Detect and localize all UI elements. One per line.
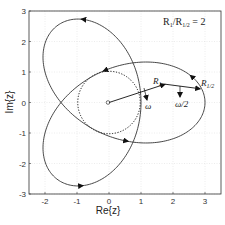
y-tick-label: 0 bbox=[22, 99, 27, 108]
r1-vector bbox=[109, 84, 165, 102]
y-tick-label: 1 bbox=[22, 68, 27, 77]
y-tick-label: -3 bbox=[19, 190, 27, 199]
x-tick-label: 1 bbox=[139, 197, 144, 206]
direction-arrow-icon bbox=[103, 70, 107, 71]
r1-label: R1 bbox=[152, 76, 162, 87]
diagram-figure: -2-10123 3210-1-2-3 R1 R1/2 ω ω/2 R1/R1/… bbox=[0, 0, 225, 225]
r-half-label: R1/2 bbox=[200, 78, 214, 89]
ratio-annotation: R1/R1/2 = 2 bbox=[163, 16, 205, 28]
grid-lines bbox=[29, 11, 221, 194]
direction-arrow-icon bbox=[124, 141, 128, 142]
y-tick-label: 3 bbox=[22, 7, 27, 16]
x-tick-label: -1 bbox=[73, 197, 81, 206]
y-axis-label: Im{z} bbox=[4, 90, 15, 113]
omega-label: ω bbox=[145, 101, 151, 111]
y-tick-label: -2 bbox=[19, 160, 27, 169]
x-axis-label: Re{z} bbox=[96, 205, 121, 216]
x-tick-label: -2 bbox=[41, 197, 49, 206]
y-tick-label: -1 bbox=[19, 129, 27, 138]
r-half-vector bbox=[165, 84, 200, 89]
omega-half-label: ω/2 bbox=[175, 99, 189, 109]
direction-arrow-icon bbox=[190, 75, 192, 77]
x-tick-label: 2 bbox=[171, 197, 176, 206]
x-tick-label: 3 bbox=[203, 197, 208, 206]
y-tick-label: 2 bbox=[22, 38, 27, 47]
